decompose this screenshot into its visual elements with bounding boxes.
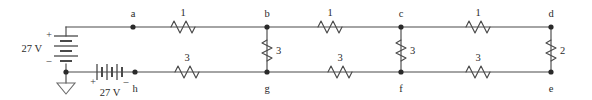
node-label-h: h — [132, 83, 138, 94]
battery-left-minus-sign: – — [46, 55, 53, 66]
node-dot-d — [548, 24, 553, 29]
battery-left-symbol — [54, 36, 78, 61]
resistor-gf-value: 3 — [337, 52, 342, 63]
node-dot-ground-junction — [63, 69, 68, 74]
node-dot-f — [398, 69, 403, 74]
node-label-g: g — [264, 83, 270, 94]
node-label-e: e — [549, 83, 554, 94]
node-dot-c — [398, 24, 403, 29]
ground-triangle — [57, 83, 75, 94]
resistor-bc-value: 1 — [327, 7, 332, 18]
node-dot-h — [132, 69, 137, 74]
node-dot-g — [264, 69, 269, 74]
battery-bottom-minus-sign: – — [123, 76, 130, 87]
resistor-hg-value: 3 — [184, 52, 189, 63]
resistor-fe-value: 3 — [475, 52, 480, 63]
node-label-d: d — [548, 8, 554, 19]
circuit-diagram: + – 27 V + – 27 V 1 1 1 3 — [0, 0, 592, 100]
battery-bottom-plus-sign: + — [90, 76, 96, 87]
resistor-cf-value: 3 — [410, 45, 415, 56]
circuit-canvas: + – 27 V + – 27 V 1 1 1 3 — [0, 0, 592, 100]
resistor-cd-value: 1 — [475, 7, 480, 18]
node-dot-b — [264, 24, 269, 29]
ground-icon — [57, 83, 75, 94]
battery-left-plus-sign: + — [46, 29, 52, 40]
resistor-de-value: 2 — [560, 45, 565, 56]
resistor-ab-value: 1 — [180, 7, 185, 18]
node-label-a: a — [131, 8, 136, 19]
resistor-bg-value: 3 — [276, 45, 281, 56]
node-dot-e — [548, 69, 553, 74]
node-label-c: c — [399, 8, 404, 19]
node-label-b: b — [264, 8, 269, 19]
battery-left-value-label: 27 V — [21, 43, 42, 54]
battery-bottom-value-label: 27 V — [100, 87, 121, 98]
node-label-f: f — [399, 83, 403, 94]
node-dot-a — [130, 24, 135, 29]
